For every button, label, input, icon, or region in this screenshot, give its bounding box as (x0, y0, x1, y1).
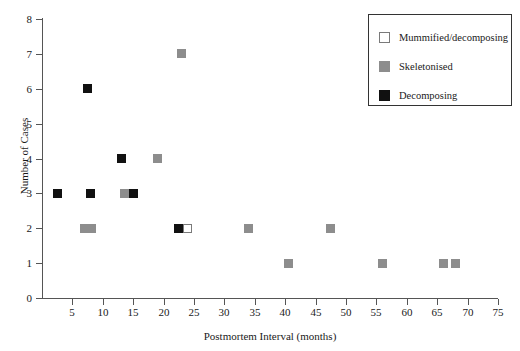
data-point (129, 189, 138, 198)
data-point (439, 259, 448, 268)
data-point (378, 259, 387, 268)
y-tick-label-7: 7 (18, 49, 32, 60)
legend-label: Skeletonised (399, 61, 453, 72)
y-tick-2 (36, 228, 43, 229)
x-tick-label-75: 75 (487, 307, 509, 318)
data-point (183, 224, 192, 233)
x-tick-45 (316, 299, 317, 305)
x-tick-40 (285, 299, 286, 305)
y-tick-label-2: 2 (18, 223, 32, 234)
y-tick-8 (36, 19, 43, 20)
legend-label: Mummified/decomposing (399, 32, 508, 43)
x-tick-10 (103, 299, 104, 305)
legend-item-decomposing: Decomposing (379, 89, 457, 101)
legend-item-mummified: Mummified/decomposing (379, 31, 508, 43)
x-tick-label-40: 40 (274, 307, 296, 318)
x-tick-label-65: 65 (426, 307, 448, 318)
x-tick-25 (194, 299, 195, 305)
x-axis-line (42, 298, 498, 299)
chart-legend: Mummified/decomposingSkeletonisedDecompo… (368, 14, 512, 106)
x-tick-5 (72, 299, 73, 305)
y-tick-label-0: 0 (18, 293, 32, 304)
x-tick-label-10: 10 (92, 307, 114, 318)
x-tick-label-15: 15 (122, 307, 144, 318)
y-tick-0 (36, 298, 43, 299)
x-tick-60 (407, 299, 408, 305)
legend-item-skeletonised: Skeletonised (379, 60, 453, 72)
x-tick-label-20: 20 (153, 307, 175, 318)
x-tick-20 (164, 299, 165, 305)
x-tick-50 (346, 299, 347, 305)
x-tick-55 (376, 299, 377, 305)
x-tick-label-55: 55 (365, 307, 387, 318)
y-tick-7 (36, 54, 43, 55)
legend-swatch-skeletonised-icon (379, 61, 390, 72)
x-tick-70 (468, 299, 469, 305)
legend-label: Decomposing (399, 90, 457, 101)
x-tick-label-50: 50 (335, 307, 357, 318)
x-tick-label-30: 30 (213, 307, 235, 318)
y-tick-label-1: 1 (18, 258, 32, 269)
x-tick-label-5: 5 (61, 307, 83, 318)
x-axis-title: Postmortem Interval (months) (42, 330, 498, 342)
y-tick-label-6: 6 (18, 84, 32, 95)
x-tick-label-60: 60 (396, 307, 418, 318)
x-tick-label-35: 35 (244, 307, 266, 318)
data-point (326, 224, 335, 233)
data-point (120, 189, 129, 198)
data-point (177, 49, 186, 58)
x-tick-30 (224, 299, 225, 305)
x-tick-label-70: 70 (457, 307, 479, 318)
data-point (153, 154, 162, 163)
data-point (87, 224, 96, 233)
y-tick-label-8: 8 (18, 14, 32, 25)
data-point (284, 259, 293, 268)
x-tick-65 (437, 299, 438, 305)
data-point (83, 84, 92, 93)
x-tick-label-25: 25 (183, 307, 205, 318)
data-point (244, 224, 253, 233)
y-axis-title: Number of Cases (18, 96, 30, 216)
y-tick-1 (36, 263, 43, 264)
x-tick-label-45: 45 (305, 307, 327, 318)
data-point (53, 189, 62, 198)
y-tick-3 (36, 193, 43, 194)
y-tick-4 (36, 159, 43, 160)
legend-swatch-mummified-icon (379, 32, 390, 43)
data-point (117, 154, 126, 163)
data-point (451, 259, 460, 268)
y-tick-5 (36, 124, 43, 125)
legend-swatch-decomposing-icon (379, 90, 390, 101)
data-point (86, 189, 95, 198)
data-point (174, 224, 183, 233)
x-tick-35 (255, 299, 256, 305)
y-tick-6 (36, 89, 43, 90)
scatter-plot: 012345678 51015202530354045505560657075 … (0, 0, 520, 351)
x-tick-15 (133, 299, 134, 305)
x-tick-75 (498, 299, 499, 305)
